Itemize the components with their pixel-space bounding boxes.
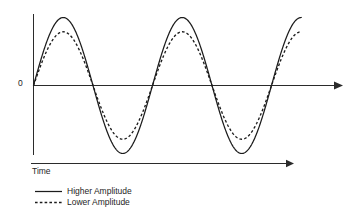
zero-axis-label: 0 bbox=[18, 79, 23, 88]
time-arrow-icon bbox=[286, 160, 294, 167]
zero-axis-arrow-icon bbox=[334, 82, 343, 90]
legend-label-lower-amplitude: Lower Amplitude bbox=[67, 198, 130, 207]
waveform-canvas bbox=[0, 0, 349, 218]
legend-label-higher-amplitude: Higher Amplitude bbox=[67, 187, 132, 196]
time-axis-label: Time bbox=[32, 167, 51, 176]
waveform-figure: 0 Time Higher Amplitude Lower Amplitude bbox=[0, 0, 349, 218]
